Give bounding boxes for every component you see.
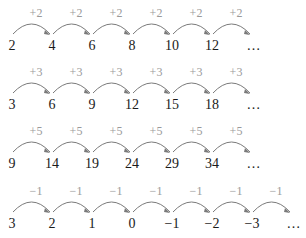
sequence-number: 15 xyxy=(165,97,179,113)
step-label: +3 xyxy=(70,65,83,80)
sequence-number: 18 xyxy=(205,97,219,113)
step-label: +5 xyxy=(230,124,243,139)
sequence-number: 3 xyxy=(9,216,16,232)
ellipsis: … xyxy=(247,97,262,113)
sequence-number: 1 xyxy=(89,216,96,232)
sequence-number: 9 xyxy=(9,156,16,172)
step-label: −1 xyxy=(230,184,243,199)
sequence-number: −1 xyxy=(165,216,180,232)
ellipsis: … xyxy=(287,216,302,232)
sequence-number: 6 xyxy=(49,97,56,113)
sequence-number: 2 xyxy=(9,38,16,54)
sequence-number: 34 xyxy=(205,156,219,172)
sequence-number: 24 xyxy=(125,156,139,172)
step-label: −1 xyxy=(110,184,123,199)
step-label: −1 xyxy=(30,184,43,199)
ellipsis: … xyxy=(247,156,262,172)
sequence-row: +2+2+2+2+2+224681012… xyxy=(0,0,306,58)
sequence-row: +3+3+3+3+3+3369121518… xyxy=(0,59,306,117)
step-label: +5 xyxy=(30,124,43,139)
sequence-number: −3 xyxy=(245,216,260,232)
step-label: +3 xyxy=(230,65,243,80)
step-label: −1 xyxy=(70,184,83,199)
sequence-number: 12 xyxy=(125,97,139,113)
step-label: +3 xyxy=(190,65,203,80)
step-label: +3 xyxy=(150,65,163,80)
sequence-number: 14 xyxy=(45,156,59,172)
ellipsis: … xyxy=(247,38,262,54)
step-label: −1 xyxy=(190,184,203,199)
sequence-number: 0 xyxy=(129,216,136,232)
step-label: +3 xyxy=(110,65,123,80)
sequence-number: 2 xyxy=(49,216,56,232)
step-label: +3 xyxy=(30,65,43,80)
sequence-number: −2 xyxy=(205,216,220,232)
step-label: +2 xyxy=(70,6,83,21)
step-label: +2 xyxy=(190,6,203,21)
step-label: +5 xyxy=(70,124,83,139)
sequence-number: 4 xyxy=(49,38,56,54)
step-label: +2 xyxy=(230,6,243,21)
step-label: +2 xyxy=(110,6,123,21)
sequence-number: 6 xyxy=(89,38,96,54)
sequence-number: 9 xyxy=(89,97,96,113)
step-label: −1 xyxy=(150,184,163,199)
step-label: +2 xyxy=(30,6,43,21)
step-label: +2 xyxy=(150,6,163,21)
step-label: +5 xyxy=(190,124,203,139)
sequence-number: 19 xyxy=(85,156,99,172)
sequence-number: 3 xyxy=(9,97,16,113)
sequence-number: 29 xyxy=(165,156,179,172)
sequence-row: +5+5+5+5+5+591419242934… xyxy=(0,118,306,176)
step-label: +5 xyxy=(110,124,123,139)
sequence-number: 12 xyxy=(205,38,219,54)
step-label: +5 xyxy=(150,124,163,139)
step-label: −1 xyxy=(270,184,283,199)
sequence-number: 10 xyxy=(165,38,179,54)
sequence-number: 8 xyxy=(129,38,136,54)
sequence-row: −1−1−1−1−1−1−13210−1−2−3… xyxy=(0,178,306,236)
